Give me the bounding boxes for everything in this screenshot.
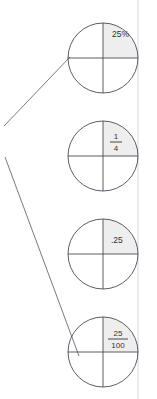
label-decimal: .25 [111,235,123,245]
shaded-quadrant-fraction-quarter [103,121,138,156]
connector-line-upper [4,57,70,126]
fraction-denominator-hundredths: 100 [111,341,125,350]
fraction-denominator-quarter: 4 [114,144,119,153]
diagram-canvas: 25% 1 4 .25 25 100 [0,0,157,399]
label-percent: 25% [112,29,129,39]
circle-fraction-quarter: 1 4 [68,121,138,191]
circle-decimal: .25 [68,219,138,289]
fraction-numerator-hundredths: 25 [114,329,123,338]
fraction-circle-diagram: 25% 1 4 .25 25 100 [0,0,157,399]
circle-fraction-hundredths: 25 100 [68,317,138,387]
circle-percent: 25% [68,23,138,93]
fraction-numerator-quarter: 1 [114,132,119,141]
